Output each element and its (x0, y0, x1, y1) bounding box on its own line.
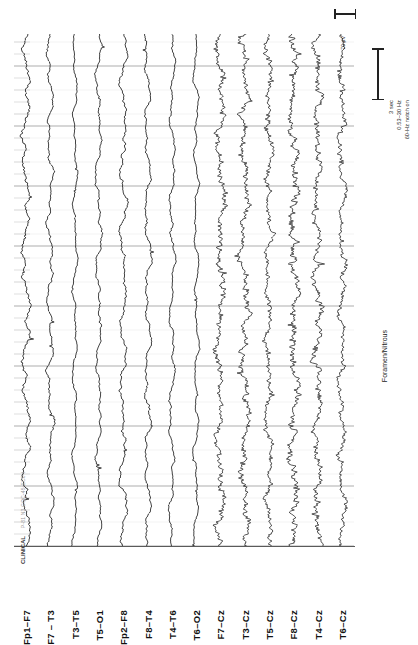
recorder-header-text: P-81 N3 COC-45-EC0 I (20, 472, 26, 528)
calibration-notch-label: 60-Hz notch on (404, 100, 410, 139)
event-annotation-label: Foramen/Nitrous (381, 330, 388, 382)
channel-label-f8-cz: F8–Cz (288, 610, 299, 639)
eeg-trace (235, 34, 253, 546)
channel-label-t4-t6: T4–T6 (167, 610, 178, 639)
calibration-duration-label: 3 sec (388, 100, 394, 114)
eeg-trace (20, 34, 34, 546)
eeg-trace (119, 34, 129, 546)
eeg-traces (14, 34, 354, 546)
channel-label-row: Fp1–F7F7 – T3T3–T5T5–O1Fp2–F8F8–T4T4–T6T… (14, 552, 354, 614)
eeg-trace (310, 34, 325, 546)
eeg-trace (286, 34, 301, 546)
calibration-ibeam-icon (377, 48, 379, 100)
amplitude-marker: 70 µV (332, 10, 372, 40)
eeg-trace (213, 34, 228, 546)
channel-label-fp2-f8: Fp2–F8 (118, 610, 129, 645)
eeg-trace (72, 34, 79, 546)
channel-label-t4-cz: T4–Cz (313, 610, 324, 639)
eeg-baseline-axis (14, 546, 355, 547)
channel-label-t3-cz: T3–Cz (240, 610, 251, 639)
amplitude-ibeam-icon (334, 13, 356, 15)
channel-label-t3-t5: T3–T5 (70, 610, 81, 639)
channel-label-t5-cz: T5–Cz (264, 610, 275, 639)
channel-label-t6-cz: T6–Cz (337, 610, 348, 639)
channel-label-f7-t3: F7 – T3 (45, 610, 56, 645)
calibration-bar: 3 sec 0.53–30 Hz 60-Hz notch on (374, 46, 418, 106)
channel-label-t5-o1: T5–O1 (94, 610, 105, 641)
eeg-trace (336, 34, 348, 546)
channel-label-f7-cz: F7–Cz (215, 610, 226, 639)
channel-label-fp1-f7: Fp1–F7 (21, 610, 32, 645)
eeg-trace (192, 34, 200, 546)
eeg-trace (45, 34, 55, 546)
calibration-filter-label: 0.53–30 Hz (396, 100, 402, 130)
eeg-trace (168, 34, 176, 546)
channel-label-f8-t4: F8–T4 (143, 610, 154, 639)
eeg-trace (262, 34, 275, 546)
eeg-plot-area (14, 34, 354, 546)
eeg-trace (143, 34, 154, 546)
eeg-trace (94, 34, 104, 546)
channel-label-t6-o2: T6–O2 (191, 610, 202, 641)
recorder-id-text: CLINICAL (20, 536, 26, 564)
amplitude-label: 70 µV (340, 36, 346, 50)
